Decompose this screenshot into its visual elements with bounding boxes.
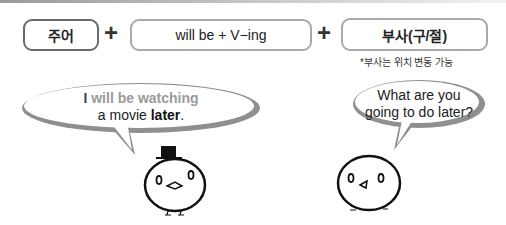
period-text: . xyxy=(180,107,184,123)
character-head xyxy=(145,159,205,211)
character-plain xyxy=(338,156,400,210)
object-text: a movie xyxy=(98,107,151,123)
character-head xyxy=(338,156,400,210)
speech-text-left: I will be watching a movie later. xyxy=(66,90,216,124)
question-line-1: What are you xyxy=(354,87,484,104)
character-with-hat xyxy=(145,146,205,215)
top-hat-icon xyxy=(161,146,176,157)
verb-phrase-highlight: will be watching xyxy=(87,90,198,106)
adverb-highlight: later xyxy=(151,107,181,123)
question-line-2: going to do later? xyxy=(354,104,484,121)
speech-text-right: What are you going to do later? xyxy=(354,87,484,121)
